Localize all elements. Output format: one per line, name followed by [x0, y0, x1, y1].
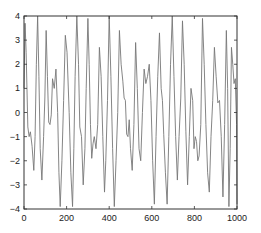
- x-tick-label: 0: [21, 213, 26, 223]
- y-tick-label: −1: [10, 132, 20, 142]
- y-tick-label: 0: [15, 108, 20, 118]
- axes-frame: [24, 16, 237, 209]
- signal-line: [24, 16, 237, 207]
- y-tick-label: 3: [15, 35, 20, 45]
- y-tick-label: 1: [15, 83, 20, 93]
- series-signal: [24, 16, 237, 207]
- x-tick-label: 400: [102, 213, 117, 223]
- y-tick-label: 4: [15, 11, 20, 21]
- x-tick-label: 800: [187, 213, 202, 223]
- line-chart: −4−3−2−101234 02004006008001000: [0, 0, 261, 233]
- x-tick-label: 200: [59, 213, 74, 223]
- y-tick-label: −2: [10, 156, 20, 166]
- y-tick-label: 2: [15, 59, 20, 69]
- x-tick-label: 600: [144, 213, 159, 223]
- y-tick-label: −3: [10, 180, 20, 190]
- x-tick-label: 1000: [227, 213, 247, 223]
- y-tick-label: −4: [10, 204, 20, 214]
